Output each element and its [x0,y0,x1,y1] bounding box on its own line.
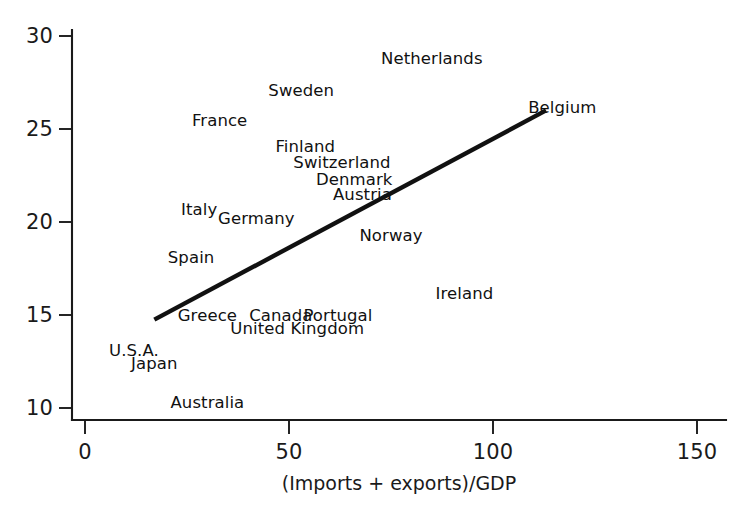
data-point-label: Germany [218,209,295,228]
x-axis-title: (Imports + exports)/GDP [282,472,516,494]
plot-canvas [0,0,740,511]
data-point-label: Belgium [528,97,596,116]
y-tick-label: 15 [26,303,53,327]
x-tick-label: 0 [78,440,92,464]
data-point-label: Sweden [268,80,334,99]
data-point-label: Norway [359,226,422,245]
data-point-label: Spain [168,248,215,267]
data-point-label: Italy [181,199,217,218]
data-point-label: Austria [333,185,392,204]
data-point-label: France [192,110,247,129]
x-tick-label: 50 [275,440,302,464]
data-point-label: Netherlands [381,49,483,68]
y-tick-label: 25 [26,117,53,141]
scatter-plot-figure: 1015202530 050100150 NetherlandsSwedenBe… [0,0,740,511]
data-point-label: Ireland [436,283,494,302]
data-point-label: Greece [178,306,237,325]
data-point-label: Japan [131,354,178,373]
y-tick-label: 30 [26,24,53,48]
x-tick-label: 150 [677,440,718,464]
x-tick-label: 100 [473,440,514,464]
data-point-label: United Kingdom [230,319,364,338]
data-point-label: Australia [170,393,244,412]
y-tick-label: 20 [26,210,53,234]
y-tick-label: 10 [26,396,53,420]
